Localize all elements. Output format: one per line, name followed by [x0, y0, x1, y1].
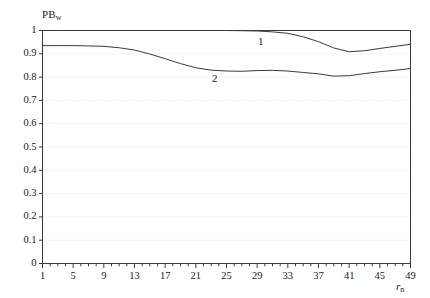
y-tick-label: 0.6: [1, 118, 37, 128]
curve-label-2: 2: [212, 72, 218, 84]
y-tick-label: 0.2: [1, 211, 37, 221]
x-tick-label: 21: [183, 271, 209, 281]
curve-2: [43, 46, 411, 77]
x-tick-label: 29: [244, 271, 270, 281]
gridlines: [43, 54, 411, 240]
curve-label-1: 1: [258, 35, 264, 47]
x-tick-label: 49: [398, 271, 424, 281]
y-axis-ticks: [39, 31, 43, 264]
x-tick-label: 9: [91, 271, 117, 281]
x-tick-label: 5: [60, 271, 86, 281]
y-tick-label: 0: [1, 258, 37, 268]
y-tick-label: 0.5: [1, 142, 37, 152]
y-tick-label: 0.9: [1, 48, 37, 58]
y-tick-label: 0.7: [1, 95, 37, 105]
x-tick-label: 17: [152, 271, 178, 281]
y-tick-label: 1: [1, 25, 37, 35]
x-tick-label: 33: [275, 271, 301, 281]
x-tick-label: 37: [306, 271, 332, 281]
y-tick-label: 0.8: [1, 72, 37, 82]
x-tick-label: 45: [367, 271, 393, 281]
y-tick-label: 0.4: [1, 165, 37, 175]
x-tick-label: 1: [30, 271, 56, 281]
curve-1: [43, 31, 411, 52]
x-axis-ticks: [43, 264, 411, 269]
plot-area: [0, 0, 430, 298]
y-tick-label: 0.1: [1, 235, 37, 245]
x-tick-label: 41: [336, 271, 362, 281]
x-tick-label: 25: [214, 271, 240, 281]
x-tick-label: 13: [122, 271, 148, 281]
chart-container: PBw rn 00.10.20.30.40.50.60.70.80.91 159…: [0, 0, 430, 298]
y-tick-label: 0.3: [1, 188, 37, 198]
